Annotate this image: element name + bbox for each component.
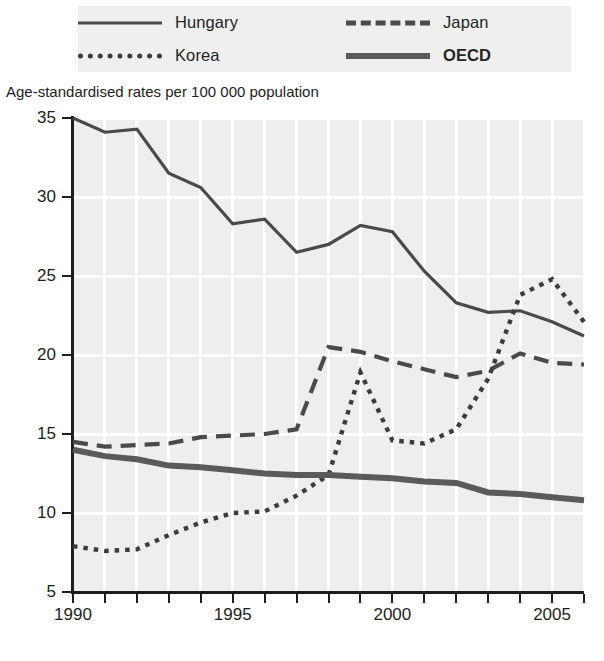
y-tick-mark xyxy=(62,433,71,435)
series-layer xyxy=(73,118,584,592)
x-tick-label: 1995 xyxy=(214,605,252,625)
x-tick-mark xyxy=(391,594,393,603)
legend-swatch-solid-thin-icon xyxy=(78,16,162,30)
y-tick-mark xyxy=(62,196,71,198)
y-tick-label: 10 xyxy=(37,503,56,523)
x-tick-mark xyxy=(583,594,585,603)
y-tick-mark xyxy=(62,275,71,277)
chart-legend: Hungary Japan Korea OECD xyxy=(78,6,571,72)
y-tick-label: 20 xyxy=(37,345,56,365)
legend-label-korea: Korea xyxy=(175,46,220,65)
legend-swatch-dotted-icon xyxy=(78,49,162,63)
series-line-japan xyxy=(73,347,584,447)
x-tick-mark xyxy=(168,594,170,603)
series-line-hungary xyxy=(73,118,584,336)
x-tick-mark xyxy=(455,594,457,603)
y-tick-label: 15 xyxy=(37,424,56,444)
legend-label-japan: Japan xyxy=(443,13,488,32)
x-tick-label: 1990 xyxy=(54,605,92,625)
x-tick-mark xyxy=(359,594,361,603)
x-tick-mark xyxy=(232,594,234,603)
legend-label-hungary: Hungary xyxy=(175,13,238,32)
y-tick-label: 5 xyxy=(47,582,56,602)
plot-area: 3530252015105 1990199520002005 xyxy=(73,118,584,592)
x-tick-mark xyxy=(72,594,74,603)
x-tick-mark xyxy=(200,594,202,603)
x-tick-mark xyxy=(423,594,425,603)
x-tick-mark xyxy=(519,594,521,603)
y-tick-label: 35 xyxy=(37,108,56,128)
legend-item-hungary: Hungary xyxy=(78,6,328,39)
x-tick-mark xyxy=(487,594,489,603)
x-tick-mark xyxy=(264,594,266,603)
series-line-oecd xyxy=(73,450,584,501)
y-tick-mark xyxy=(62,117,71,119)
legend-item-korea: Korea xyxy=(78,39,328,72)
chart-root: Hungary Japan Korea OECD Age-standardise… xyxy=(0,0,604,661)
x-tick-mark xyxy=(136,594,138,603)
y-tick-mark xyxy=(62,512,71,514)
x-tick-mark xyxy=(296,594,298,603)
x-tick-label: 2000 xyxy=(373,605,411,625)
legend-swatch-dashed-icon xyxy=(346,16,430,30)
series-line-korea xyxy=(73,279,584,551)
y-tick-mark xyxy=(62,354,71,356)
y-axis-caption: Age-standardised rates per 100 000 popul… xyxy=(6,83,319,100)
legend-label-oecd: OECD xyxy=(443,46,491,65)
legend-item-oecd: OECD xyxy=(328,39,571,72)
legend-swatch-solid-thick-icon xyxy=(346,49,430,63)
y-tick-label: 30 xyxy=(37,187,56,207)
legend-item-japan: Japan xyxy=(328,6,571,39)
x-tick-label: 2005 xyxy=(533,605,571,625)
x-tick-mark xyxy=(328,594,330,603)
x-tick-mark xyxy=(551,594,553,603)
x-tick-mark xyxy=(104,594,106,603)
y-tick-mark xyxy=(62,591,71,593)
y-tick-label: 25 xyxy=(37,266,56,286)
